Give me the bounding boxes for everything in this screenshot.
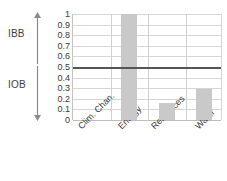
threshold-line — [73, 67, 221, 69]
gridline — [73, 78, 221, 79]
y-tick-label: 0.5 — [57, 63, 70, 72]
gridline — [73, 35, 221, 36]
y-tick-label: 1 — [65, 10, 70, 19]
gridline — [73, 14, 221, 15]
bar — [159, 103, 175, 120]
y-tick-label: 0.9 — [57, 20, 70, 29]
y-tick-label: 0.4 — [57, 73, 70, 82]
bar-chart: IBB IOB 10.90.80.70.60.50.40.30.20.10 Cl… — [0, 0, 227, 181]
y-tick-label: 0.1 — [57, 105, 70, 114]
y-tick-label: 0.8 — [57, 31, 70, 40]
annotation-label-ibb: IBB — [8, 28, 25, 39]
y-tick-label: 0.6 — [57, 52, 70, 61]
gridline — [73, 25, 221, 26]
y-tick-label: 0.2 — [57, 94, 70, 103]
gridline — [73, 46, 221, 47]
y-tick-label: 0.7 — [57, 41, 70, 50]
x-axis-labels: Clim. Chan.EnergyResourcesWater — [72, 120, 222, 180]
y-tick-label: 0.3 — [57, 84, 70, 93]
arrow-up-icon — [33, 12, 42, 65]
gridline — [73, 56, 221, 57]
arrow-down-icon — [33, 65, 42, 121]
y-axis-ticks: 10.90.80.70.60.50.40.30.20.10 — [44, 9, 70, 121]
annotation-label-iob: IOB — [8, 79, 26, 90]
y-tick-label: 0 — [65, 116, 70, 125]
bar — [196, 89, 212, 120]
